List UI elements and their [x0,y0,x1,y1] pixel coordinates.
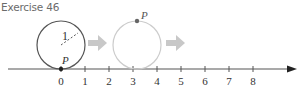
tick-label: 4 [154,75,160,87]
axis-arrowhead-icon [287,66,297,73]
end-point-label: P [140,9,148,21]
radius-label: 1 [62,29,68,43]
tick-label: 3 [130,75,136,87]
arrow-right-icon [88,35,107,51]
end-point-p [135,19,139,23]
start-point-label: P [61,54,69,66]
tick-label: 5 [178,75,184,87]
end-circle [113,21,161,69]
rolling-circle-diagram: 012345678 1 P P [0,0,300,91]
tick-label: 7 [226,75,232,87]
tick-label: 6 [202,75,208,87]
tick-label: 8 [250,75,256,87]
tick-label: 1 [82,75,88,87]
tick-label: 0 [58,75,64,87]
tick-label: 2 [106,75,112,87]
arrow-right-icon [166,35,185,51]
start-point-p [59,67,63,71]
